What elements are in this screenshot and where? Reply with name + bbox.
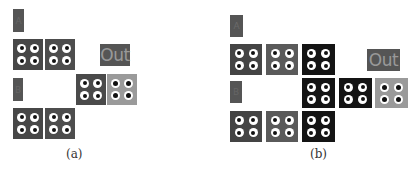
hole-icon xyxy=(235,116,244,125)
tile-block xyxy=(230,44,262,75)
hole-icon xyxy=(321,95,330,104)
hole-icon xyxy=(80,79,89,88)
input-label-b: B xyxy=(13,78,23,101)
tile-block xyxy=(45,39,75,70)
hole-icon xyxy=(380,83,389,92)
hole-icon xyxy=(17,44,26,53)
hole-icon xyxy=(124,91,133,100)
hole-icon xyxy=(321,49,330,58)
hole-icon xyxy=(307,83,316,92)
tile-block xyxy=(13,108,43,139)
tile-block-output xyxy=(375,78,408,108)
hole-icon xyxy=(321,128,330,137)
hole-icon xyxy=(394,95,403,104)
hole-icon xyxy=(93,79,102,88)
hole-icon xyxy=(49,125,58,134)
hole-icon xyxy=(271,116,280,125)
hole-icon xyxy=(285,128,294,137)
tile-block xyxy=(302,44,335,75)
hole-icon xyxy=(49,44,58,53)
hole-icon xyxy=(30,44,39,53)
hole-icon xyxy=(111,91,120,100)
hole-icon xyxy=(321,116,330,125)
hole-icon xyxy=(307,95,316,104)
hole-icon xyxy=(249,61,258,70)
hole-icon xyxy=(62,113,71,122)
hole-icon xyxy=(30,125,39,134)
input-label-a: A xyxy=(13,9,24,32)
hole-icon xyxy=(271,128,280,137)
tile-block xyxy=(266,111,298,142)
caption-a: (a) xyxy=(66,147,83,161)
hole-icon xyxy=(17,113,26,122)
tile-block xyxy=(76,74,106,105)
hole-icon xyxy=(358,83,367,92)
tile-block-output xyxy=(107,74,137,105)
hole-icon xyxy=(271,61,280,70)
tile-block xyxy=(45,108,75,139)
hole-icon xyxy=(249,49,258,58)
hole-icon xyxy=(30,56,39,65)
hole-icon xyxy=(249,128,258,137)
hole-icon xyxy=(321,83,330,92)
tile-block xyxy=(302,78,335,108)
hole-icon xyxy=(394,83,403,92)
hole-icon xyxy=(321,61,330,70)
tile-block xyxy=(266,44,298,75)
hole-icon xyxy=(307,49,316,58)
hole-icon xyxy=(307,128,316,137)
hole-icon xyxy=(17,56,26,65)
hole-icon xyxy=(344,83,353,92)
hole-icon xyxy=(344,95,353,104)
hole-icon xyxy=(307,61,316,70)
hole-icon xyxy=(124,79,133,88)
hole-icon xyxy=(358,95,367,104)
caption-b: (b) xyxy=(310,147,327,161)
input-label-b: B xyxy=(230,81,242,103)
hole-icon xyxy=(17,125,26,134)
output-label: Out xyxy=(100,44,130,66)
hole-icon xyxy=(285,116,294,125)
hole-icon xyxy=(285,61,294,70)
hole-icon xyxy=(235,128,244,137)
hole-icon xyxy=(80,91,89,100)
hole-icon xyxy=(49,56,58,65)
tile-block xyxy=(230,111,262,142)
hole-icon xyxy=(285,49,294,58)
input-label-a: A xyxy=(230,15,243,37)
hole-icon xyxy=(93,91,102,100)
hole-icon xyxy=(49,113,58,122)
hole-icon xyxy=(62,44,71,53)
hole-icon xyxy=(235,49,244,58)
hole-icon xyxy=(62,56,71,65)
hole-icon xyxy=(111,79,120,88)
hole-icon xyxy=(235,61,244,70)
hole-icon xyxy=(249,116,258,125)
hole-icon xyxy=(271,49,280,58)
hole-icon xyxy=(62,125,71,134)
output-label: Out xyxy=(367,49,400,71)
tile-block xyxy=(302,111,335,142)
hole-icon xyxy=(380,95,389,104)
hole-icon xyxy=(307,116,316,125)
tile-block xyxy=(13,39,43,70)
hole-icon xyxy=(30,113,39,122)
tile-block xyxy=(339,78,372,108)
